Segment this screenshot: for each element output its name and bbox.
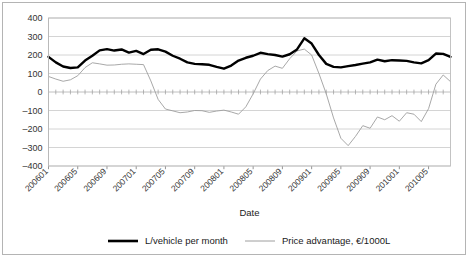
figure-border — [2, 2, 466, 255]
chart-figure: 4003002001000–100–200–300–400 2006012006… — [0, 0, 470, 258]
